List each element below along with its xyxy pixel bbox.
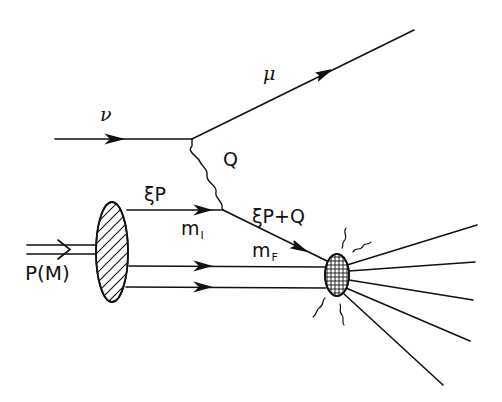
feynman-diagram: ν μ Q ξP ξP+Q mI mF P(M) bbox=[0, 0, 502, 402]
muon-line bbox=[192, 30, 414, 139]
spectator-line-1 bbox=[129, 262, 325, 270]
label-boson-q: Q bbox=[223, 150, 238, 169]
label-neutrino: ν bbox=[100, 105, 112, 124]
target-hatched-blob bbox=[80, 160, 140, 370]
mass-final-symbol: m bbox=[252, 239, 271, 261]
outgoing-jets bbox=[343, 225, 477, 385]
label-muon: μ bbox=[263, 64, 275, 83]
mass-final-subscript: F bbox=[272, 251, 278, 264]
label-proton: P(M) bbox=[25, 263, 70, 283]
label-mass-final: mF bbox=[252, 241, 278, 260]
initial-parton-line bbox=[127, 206, 223, 214]
boson-propagator-wavy bbox=[190, 139, 223, 210]
label-final-parton: ξP+Q bbox=[252, 207, 305, 226]
spectator-line-2 bbox=[126, 283, 326, 291]
neutrino-line bbox=[55, 135, 192, 143]
mass-initial-symbol: m bbox=[181, 217, 200, 239]
mass-initial-subscript: I bbox=[201, 229, 204, 242]
label-mass-initial: mI bbox=[181, 219, 204, 238]
hadronization-crosshatched-blob bbox=[322, 252, 352, 298]
label-initial-parton: ξP bbox=[144, 185, 166, 204]
proton-double-line bbox=[27, 240, 97, 259]
